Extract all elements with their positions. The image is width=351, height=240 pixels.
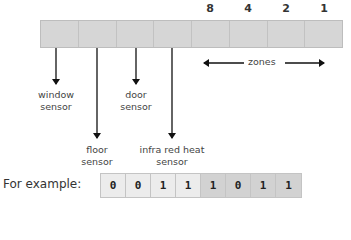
floor-sensor-label: floor sensor — [75, 144, 119, 168]
example-label: For example: — [3, 177, 81, 191]
door-sensor-line1: door — [115, 89, 157, 101]
floor-sensor-line1: floor — [75, 144, 119, 156]
example-bit: 0 — [226, 174, 251, 197]
example-bit: 1 — [176, 174, 201, 197]
door-sensor-label: door sensor — [115, 89, 157, 113]
example-bit: 1 — [251, 174, 276, 197]
example-bits: 0 0 1 1 1 0 1 1 — [100, 173, 302, 198]
floor-sensor-line2: sensor — [75, 156, 119, 168]
door-sensor-line2: sensor — [115, 101, 157, 113]
example-bit: 1 — [151, 174, 176, 197]
infrared-sensor-line2: sensor — [132, 156, 212, 168]
infrared-sensor-line1: infra red heat — [132, 144, 212, 156]
example-bit: 0 — [126, 174, 151, 197]
window-sensor-line1: window — [30, 89, 82, 101]
infrared-sensor-label: infra red heat sensor — [132, 144, 212, 168]
example-bit: 0 — [101, 174, 126, 197]
example-bit: 1 — [201, 174, 226, 197]
zones-label: zones — [248, 56, 276, 67]
window-sensor-line2: sensor — [30, 101, 82, 113]
example-bit: 1 — [276, 174, 301, 197]
window-sensor-label: window sensor — [30, 89, 82, 113]
